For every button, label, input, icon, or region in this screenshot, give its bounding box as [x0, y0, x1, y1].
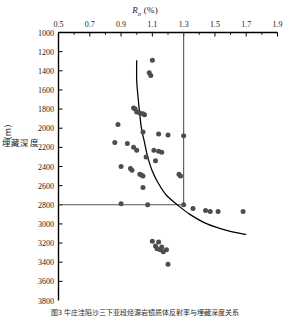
reference-lines-group [59, 33, 184, 205]
axes-group [59, 33, 278, 301]
y-tick-label: 2600 [22, 181, 54, 190]
data-point [134, 148, 139, 153]
data-point [140, 130, 145, 135]
x-tick-label: 1.1 [147, 20, 157, 29]
data-point [145, 202, 150, 207]
data-point [150, 239, 155, 244]
data-point [191, 206, 196, 211]
y-tick-label: 1400 [22, 66, 54, 75]
y-tick-label: 3000 [22, 219, 54, 228]
data-point [112, 140, 117, 145]
data-point [181, 133, 186, 138]
data-point [119, 201, 124, 206]
y-tick-label: 3800 [22, 296, 54, 305]
data-point [241, 209, 246, 214]
y-tick-label: 2800 [22, 200, 54, 209]
data-point [159, 150, 164, 155]
y-tick-label: 3200 [22, 239, 54, 248]
data-point [148, 73, 153, 78]
x-tick-label: 1.5 [210, 20, 220, 29]
data-point [156, 131, 161, 136]
data-point [208, 209, 213, 214]
y-tick-label: 1600 [22, 85, 54, 94]
data-point [151, 148, 156, 153]
y-tick-label: 1200 [22, 47, 54, 56]
data-point [153, 158, 158, 163]
data-points-group [112, 58, 245, 267]
figure-container: Ro (%) (m)埋藏深度 0.50.70.91.11.31.51.71.91… [0, 0, 290, 320]
data-point [140, 185, 145, 190]
data-point [166, 132, 171, 137]
data-point [166, 262, 171, 267]
y-tick-label: 2200 [22, 143, 54, 152]
data-point [203, 208, 208, 213]
data-point [178, 174, 183, 179]
x-tick-label: 0.9 [116, 20, 126, 29]
data-point [119, 164, 124, 169]
data-point [181, 202, 186, 207]
data-point [161, 249, 166, 254]
y-tick-label: 3400 [22, 258, 54, 267]
data-point [140, 174, 145, 179]
y-tick-label: 2000 [22, 124, 54, 133]
y-tick-label: 1000 [22, 28, 54, 37]
data-point [115, 122, 120, 127]
x-tick-label: 1.9 [273, 20, 283, 29]
data-point [125, 141, 130, 146]
x-tick-label: 0.5 [54, 20, 64, 29]
x-tick-label: 1.7 [241, 20, 251, 29]
data-point [142, 112, 147, 117]
x-tick-label: 1.3 [179, 20, 189, 29]
data-point [144, 154, 149, 159]
figure-caption: 图3 牛庄洼陷沙三下亚段烃源岩镜质体反射率与埋藏深度关系 [0, 307, 290, 317]
y-tick-label: 1800 [22, 105, 54, 114]
x-tick-label: 0.7 [85, 20, 95, 29]
y-tick-label: 3600 [22, 277, 54, 286]
data-point [216, 209, 221, 214]
y-tick-label: 2400 [22, 162, 54, 171]
data-point [130, 168, 135, 173]
data-point [150, 58, 155, 63]
